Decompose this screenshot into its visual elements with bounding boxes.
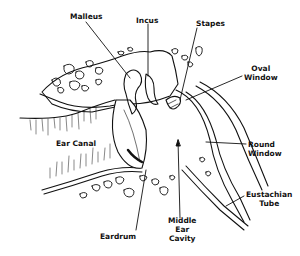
ear-canal-lower-wall — [42, 168, 140, 191]
eardrum-shape — [112, 100, 146, 168]
ear-anatomy-illustration — [0, 0, 300, 256]
label-eardrum: Eardrum — [100, 232, 136, 241]
label-eustachian-tube: Eustachian Tube — [246, 190, 292, 208]
stapes-bone — [166, 96, 181, 109]
mastoid-air-cells-lower — [80, 157, 211, 198]
label-ear-canal: Ear Canal — [56, 139, 96, 148]
label-malleus: Malleus — [70, 12, 103, 21]
incus-bone — [145, 74, 158, 104]
label-round-window: Round Window — [248, 140, 282, 158]
label-oval-window: Oval Window — [244, 64, 278, 82]
label-incus: Incus — [136, 16, 158, 25]
label-stapes: Stapes — [196, 19, 225, 28]
leader-lines — [86, 22, 246, 230]
label-middle-ear-cavity: Middle Ear Cavity — [168, 216, 196, 243]
